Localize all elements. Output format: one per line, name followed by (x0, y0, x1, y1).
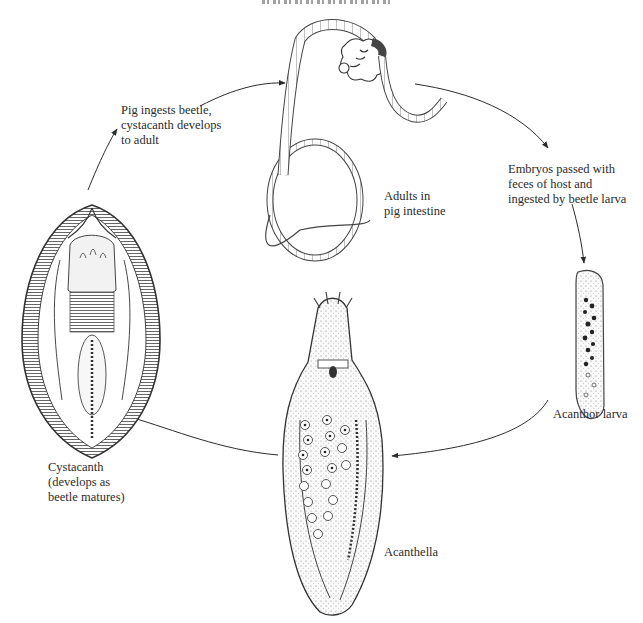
adult-worm-illustration (266, 25, 444, 259)
label-line: Embryos passed with (508, 162, 626, 177)
stage-label-acanthor: Acanthor larva (553, 407, 628, 422)
label-line: to adult (121, 133, 221, 148)
label-line: Pig ingests beetle, (121, 103, 221, 118)
stage-label-acanthella: Acanthella (384, 545, 438, 560)
label-line: Acanthella (384, 545, 438, 560)
label-line: beetle matures) (48, 490, 125, 505)
life-cycle-diagram: Pig ingests beetle, cystacanth develops … (0, 0, 643, 623)
stage-label-cystacanth: Cystacanth (develops as beetle matures) (48, 460, 125, 505)
stage-label-adults: Adults in pig intestine (384, 189, 445, 219)
transition-label-pig-ingests-beetle: Pig ingests beetle, cystacanth develops … (121, 103, 221, 148)
label-line: ingested by beetle larva (508, 192, 626, 207)
acanthor-larva-illustration (576, 271, 604, 419)
label-line: pig intestine (384, 204, 445, 219)
label-line: feces of host and (508, 177, 626, 192)
arrow-acanthor-to-acanthella (392, 400, 548, 456)
label-line: Adults in (384, 189, 445, 204)
label-line: cystacanth develops (121, 118, 221, 133)
label-line: Cystacanth (48, 460, 125, 475)
label-line: (develops as (48, 475, 125, 490)
illustration-layer (0, 0, 643, 623)
acanthella-illustration (283, 292, 383, 615)
arrow-acanthella-to-cystacanth (130, 417, 278, 455)
label-line: Acanthor larva (553, 407, 628, 422)
transition-label-embryos-passed: Embryos passed with feces of host and in… (508, 162, 626, 207)
